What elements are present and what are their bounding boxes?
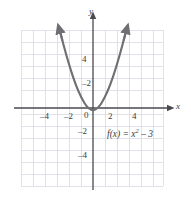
y-axis-label: y <box>89 6 93 16</box>
x-tick-label-4: 4 <box>132 111 137 121</box>
function-label-prefix: f(x) = x <box>107 129 136 139</box>
x-tick-label--2: –2 <box>64 111 73 121</box>
y-tick-label-4: 4 <box>82 54 87 64</box>
graph-figure: –4 –2 0 2 4 4 –2 –2 –4 x y f(x) = x2 – 3 <box>0 0 191 197</box>
y-tick-label-2: –2 <box>82 78 91 88</box>
parabola-right-arrow <box>124 32 127 41</box>
function-label-suffix: – 3 <box>139 129 153 139</box>
y-tick-label--4: –4 <box>78 150 87 160</box>
origin-label: 0 <box>84 110 89 120</box>
y-tick-label--2: –2 <box>78 126 87 136</box>
parabola-left-arrow <box>60 32 63 41</box>
x-tick-label--4: –4 <box>40 111 49 121</box>
x-axis-label: x <box>176 101 180 111</box>
function-label: f(x) = x2 – 3 <box>107 127 153 139</box>
coordinate-plane-svg <box>0 0 191 197</box>
x-tick-label-2: 2 <box>108 111 113 121</box>
